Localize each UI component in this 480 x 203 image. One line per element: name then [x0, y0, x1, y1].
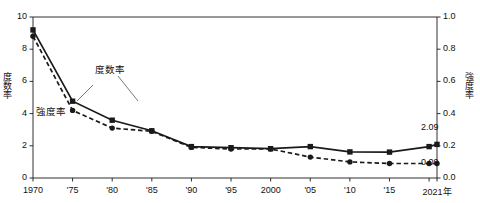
data-point-dosuritsu: [387, 149, 392, 154]
annotation-dosuritsu: 度数率: [95, 62, 125, 76]
value-label-kyodoritsu-2021: 0.09: [421, 157, 439, 167]
data-point-kyodoritsu: [110, 125, 115, 130]
data-point-dosuritsu: [434, 142, 439, 147]
annotation-kyodoritsu: 強度率: [36, 104, 66, 118]
plot-area: [0, 0, 480, 203]
data-point-kyodoritsu: [30, 34, 35, 39]
data-point-kyodoritsu: [387, 161, 392, 166]
data-point-kyodoritsu: [228, 146, 233, 151]
data-point-dosuritsu: [110, 118, 115, 123]
series-line-dosuritsu: [33, 30, 437, 152]
data-point-kyodoritsu: [347, 159, 352, 164]
value-label-dosuritsu-2021: 2.09: [421, 122, 439, 132]
data-point-dosuritsu: [30, 27, 35, 32]
data-point-kyodoritsu: [149, 129, 154, 134]
data-point-kyodoritsu: [268, 146, 273, 151]
leader-line-kyodoritsu: [77, 85, 93, 101]
series-line-kyodoritsu: [33, 36, 437, 163]
data-point-dosuritsu: [347, 149, 352, 154]
data-point-kyodoritsu: [308, 154, 313, 159]
data-point-dosuritsu: [70, 99, 75, 104]
data-point-dosuritsu: [426, 144, 431, 149]
leader-line-dosuritsu: [118, 76, 138, 101]
data-point-kyodoritsu: [70, 108, 75, 113]
data-point-kyodoritsu: [189, 145, 194, 150]
chart-container: 度数率 強度率 0246810 0.00.20.40.60.81.0 1970'…: [0, 0, 480, 203]
data-point-dosuritsu: [308, 144, 313, 149]
